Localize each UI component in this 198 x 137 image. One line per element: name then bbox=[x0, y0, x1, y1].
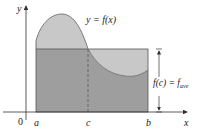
mvt-diagram: y x 0 a c b y = f(x) f(c) = fave bbox=[0, 0, 198, 137]
fc-label: f(c) = fave bbox=[153, 78, 189, 89]
curve-region bbox=[36, 14, 88, 49]
a-label: a bbox=[34, 117, 39, 128]
c-label: c bbox=[86, 117, 91, 128]
origin-label: 0 bbox=[18, 116, 23, 127]
curve-label: y = f(x) bbox=[85, 14, 117, 26]
x-axis-label: x bbox=[183, 117, 189, 128]
y-axis-label: y bbox=[16, 3, 22, 14]
b-label: b bbox=[146, 117, 151, 128]
